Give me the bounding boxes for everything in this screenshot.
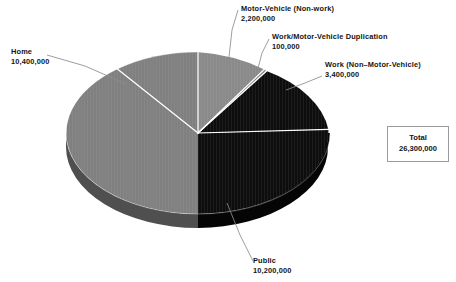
callout-home-value: 10,400,000	[11, 57, 49, 67]
callout-motor-vehicle-nonwork-category: Motor-Vehicle (Non-work)	[241, 4, 334, 14]
callout-work-non-motor-vehicle-category: Work (Non–Motor-Vehicle)	[325, 60, 421, 70]
callout-public-category: Public	[253, 256, 291, 266]
leader-line-work	[286, 76, 322, 90]
total-box: Total 26,300,000	[387, 126, 449, 162]
callout-motor-vehicle-nonwork-value: 2,200,000	[241, 14, 334, 24]
callout-work-non-motor-vehicle-value: 3,400,000	[325, 70, 421, 80]
pie-slice-public[interactable]	[198, 129, 329, 214]
callout-home: Home 10,400,000	[11, 47, 49, 67]
callout-work-motor-vehicle-duplication-value: 100,000	[272, 42, 388, 52]
pie-chart-figure: Home 10,400,000 Motor-Vehicle (Non-work)…	[0, 0, 456, 282]
callout-work-motor-vehicle-duplication: Work/Motor-Vehicle Duplication 100,000	[272, 32, 388, 52]
callout-work-non-motor-vehicle: Work (Non–Motor-Vehicle) 3,400,000	[325, 60, 421, 80]
callout-home-category: Home	[11, 47, 49, 57]
callout-motor-vehicle-nonwork: Motor-Vehicle (Non-work) 2,200,000	[241, 4, 334, 24]
callout-public: Public 10,200,000	[253, 256, 291, 276]
total-box-label: Total	[390, 132, 446, 143]
total-box-value: 26,300,000	[390, 143, 446, 154]
callout-public-value: 10,200,000	[253, 266, 291, 276]
callout-work-motor-vehicle-duplication-category: Work/Motor-Vehicle Duplication	[272, 32, 388, 42]
